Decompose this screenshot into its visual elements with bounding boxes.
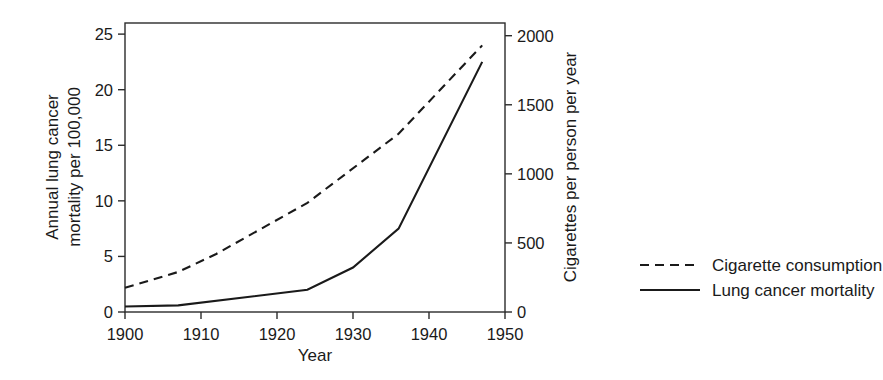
y-tick-label: 10 [95, 192, 113, 210]
x-tick-label: 1930 [335, 325, 372, 343]
y-tick-label: 20 [95, 81, 113, 99]
x-tick-label: 1940 [411, 325, 448, 343]
x-tick-label: 1950 [487, 325, 524, 343]
x-tick-label: 1910 [183, 325, 220, 343]
y2-tick-label: 500 [517, 234, 545, 252]
plot-area-frame [125, 23, 505, 312]
y2-tick-label: 0 [517, 303, 526, 321]
legend-label-cigarette-consumption: Cigarette consumption [712, 256, 882, 275]
y-axis-left-ticks: 0510152025 [95, 25, 125, 321]
y-tick-label: 5 [104, 247, 113, 265]
legend-label-lung-cancer-mortality: Lung cancer mortality [712, 281, 875, 300]
y-axis-left-title-line1: Annual lung cancer [43, 94, 62, 240]
y-axis-right-title: Cigarettes per person per year [561, 51, 580, 282]
line-chart: 190019101920193019401950 0510152025 0500… [0, 0, 883, 380]
x-tick-label: 1920 [259, 325, 296, 343]
x-axis-title: Year [298, 346, 333, 365]
y-axis-left-title-line2: mortality per 100,000 [65, 87, 84, 247]
series-lung-cancer-mortality [125, 62, 482, 307]
x-tick-label: 1900 [107, 325, 144, 343]
y-axis-right-ticks: 0500100015002000 [505, 27, 554, 321]
y2-tick-label: 1000 [517, 165, 554, 183]
x-axis-ticks: 190019101920193019401950 [107, 312, 524, 343]
chart-legend: Cigarette consumption Lung cancer mortal… [640, 256, 882, 300]
y2-tick-label: 2000 [517, 27, 554, 45]
y-tick-label: 15 [95, 136, 113, 154]
y2-tick-label: 1500 [517, 96, 554, 114]
figure-container: 190019101920193019401950 0510152025 0500… [0, 0, 883, 380]
y-tick-label: 25 [95, 25, 113, 43]
y-tick-label: 0 [104, 303, 113, 321]
